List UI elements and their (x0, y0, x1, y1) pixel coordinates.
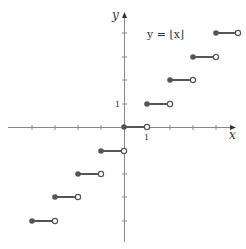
floor-function-graph: y x 1 1 y = ⌊x⌋ (0, 0, 246, 249)
x-tick-label-1: 1 (144, 133, 149, 142)
y-tick-label-1: 1 (115, 100, 120, 109)
y-axis-label: y (111, 8, 119, 22)
x-axis-label: x (229, 128, 236, 142)
y-axis-arrow-icon (122, 12, 127, 18)
axes (8, 16, 233, 242)
equation-label: y = ⌊x⌋ (146, 28, 184, 41)
